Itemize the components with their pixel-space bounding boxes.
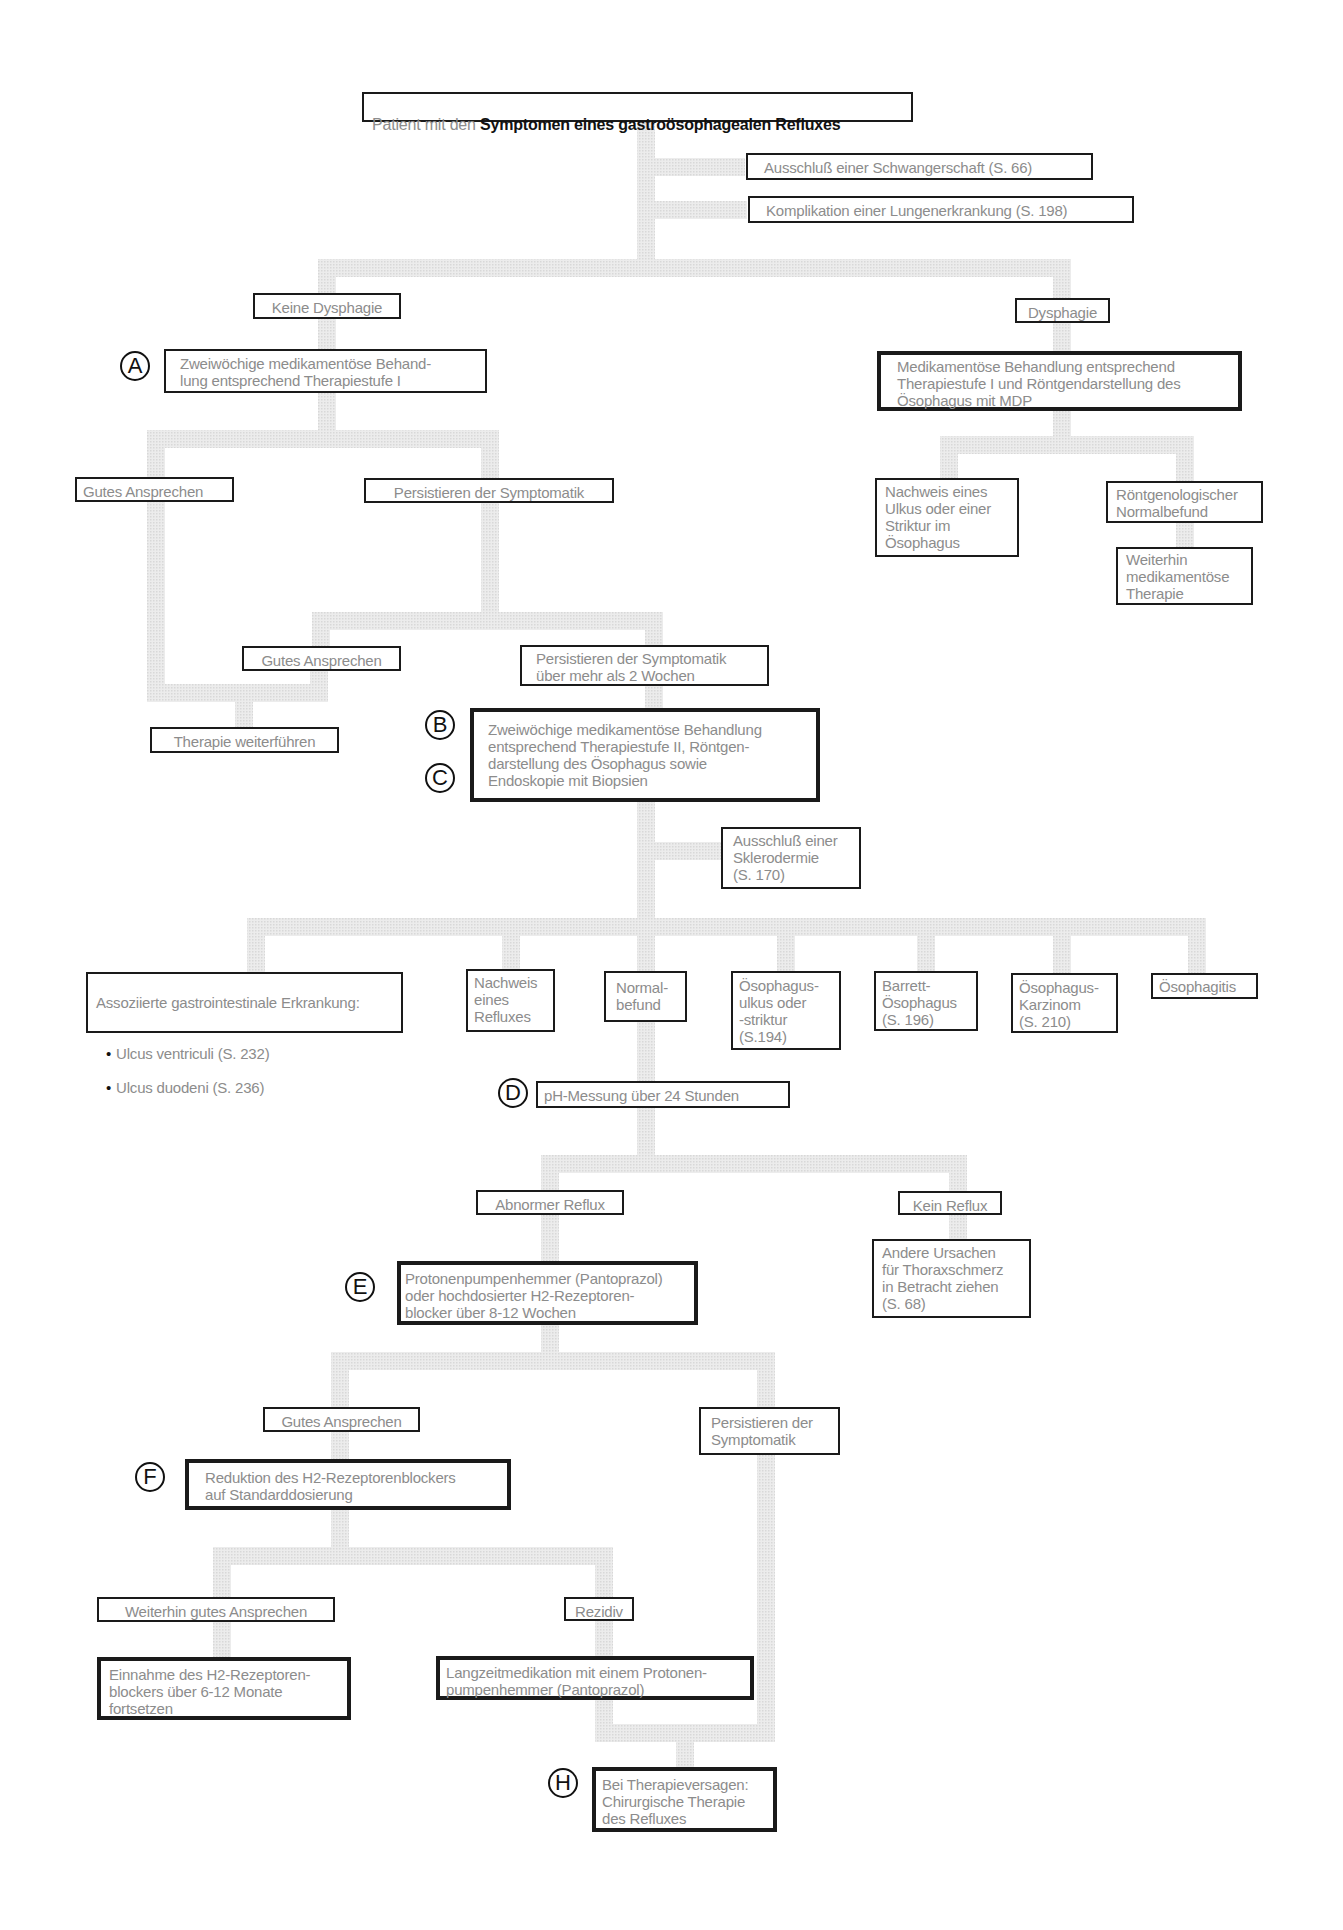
node-keine-dysphagie: Keine Dysphagie — [253, 293, 401, 319]
node-gutes-ansprechen-2: Gutes Ansprechen — [242, 646, 401, 671]
node-oesophagitis: Ösophagitis — [1151, 973, 1258, 999]
node-andere-ursachen: Andere Ursachen für Thoraxschmerz in Bet… — [872, 1239, 1031, 1318]
node-step-a: Zweiwöchige medikamentöse Behand- lung e… — [164, 349, 487, 393]
start-node: Patient mit den Symptomen eines gastroös… — [362, 92, 913, 122]
node-abnormer-reflux: Abnormer Reflux — [476, 1190, 624, 1215]
node-karzinom: Ösophagus- Karzinom (S. 210) — [1011, 973, 1118, 1033]
node-langzeit: Langzeitmedikation mit einem Protonen- p… — [436, 1656, 754, 1700]
node-weiterhin-gut: Weiterhin gutes Ansprechen — [97, 1597, 335, 1622]
node-assoziiert-list: Ulcus ventriculi (S. 232) Ulcus duodeni … — [96, 1028, 393, 1113]
node-nachweis-ulkus: Nachweis eines Ulkus oder einer Striktur… — [875, 478, 1019, 557]
list-item: Ulcus ventriculi (S. 232) — [106, 1045, 393, 1062]
node-persistieren-1: Persistieren der Symptomatik — [364, 478, 614, 503]
node-lungenerkrankung: Komplikation einer Lungenerkrankung (S. … — [748, 196, 1134, 223]
node-step-d: pH-Messung über 24 Stunden — [536, 1081, 790, 1108]
node-gutes-ansprechen-3: Gutes Ansprechen — [263, 1407, 420, 1432]
marker-a: A — [120, 351, 150, 381]
node-step-bc: Zweiwöchige medikamentöse Behandlung ent… — [470, 708, 820, 802]
node-schwangerschaft: Ausschluß einer Schwangerschaft (S. 66) — [746, 153, 1093, 180]
node-einnahme: Einnahme des H2-Rezeptoren- blockers übe… — [97, 1657, 351, 1720]
flow-connectors — [0, 0, 1343, 1930]
node-weiterhin-therapie: Weiterhin medikamentöse Therapie — [1116, 547, 1253, 605]
marker-d: D — [498, 1078, 528, 1108]
node-dysphagie: Dysphagie — [1015, 298, 1110, 323]
marker-c: C — [425, 763, 455, 793]
marker-b: B — [425, 710, 455, 740]
node-oesophagusulkus: Ösophagus- ulkus oder -striktur (S.194) — [731, 971, 841, 1050]
node-sklerodermie: Ausschluß einer Sklerodermie (S. 170) — [721, 827, 861, 889]
node-gutes-ansprechen-1: Gutes Ansprechen — [75, 477, 234, 502]
node-assoziiert-title: Assoziierte gastrointestinale Erkrankung… — [96, 994, 393, 1011]
node-step-e: Protonenpumpenhemmer (Pantoprazol) oder … — [397, 1261, 698, 1325]
list-item: Ulcus duodeni (S. 236) — [106, 1079, 393, 1096]
start-node-highlight: Symptomen eines gastroösophagealen Reflu… — [480, 116, 840, 133]
node-dysphagie-treatment: Medikamentöse Behandlung entsprechend Th… — [877, 351, 1242, 411]
node-normalbefund: Normal- befund — [604, 971, 687, 1022]
marker-h: H — [548, 1768, 578, 1798]
node-therapie-weiterfuehren: Therapie weiterführen — [150, 727, 339, 753]
node-rezidiv: Rezidiv — [564, 1597, 634, 1621]
node-nachweis-reflux: Nachweis eines Refluxes — [466, 969, 555, 1032]
node-persistieren-2: Persistieren der Symptomatik über mehr a… — [520, 645, 769, 686]
node-persistieren-3: Persistieren der Symptomatik — [699, 1407, 840, 1455]
marker-e: E — [345, 1272, 375, 1302]
node-step-f: Reduktion des H2-Rezeptorenblockers auf … — [185, 1459, 511, 1510]
node-step-h: Bei Therapieversagen: Chirurgische Thera… — [592, 1767, 777, 1832]
node-kein-reflux: Kein Reflux — [898, 1191, 1002, 1215]
marker-f: F — [135, 1462, 165, 1492]
node-roentgen-normal: Röntgenologischer Normalbefund — [1106, 481, 1263, 523]
node-barrett: Barrett- Ösophagus (S. 196) — [874, 971, 978, 1031]
start-node-prefix: Patient mit den — [372, 116, 480, 133]
node-assoziiert: Assoziierte gastrointestinale Erkrankung… — [86, 972, 403, 1033]
